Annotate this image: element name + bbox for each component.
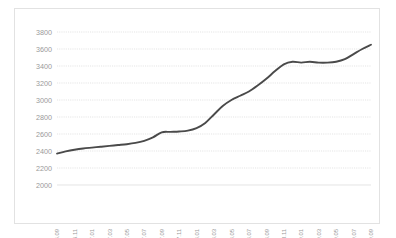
x-axis-tick-labels: 2016.092016.112017.012017.032017.052017.… bbox=[54, 228, 374, 238]
x-axis-tick-label: 2018.09 bbox=[264, 229, 270, 238]
series-group bbox=[57, 45, 371, 154]
x-axis-tick-label: 2019.01 bbox=[298, 229, 304, 238]
y-axis-tick-label: 2200 bbox=[36, 164, 52, 173]
y-axis-tick-label: 3000 bbox=[36, 96, 52, 105]
x-axis-tick-label: 2019.09 bbox=[368, 229, 374, 238]
x-axis-tick-label: 2017.01 bbox=[89, 229, 95, 238]
x-axis-tick-label: 2018.01 bbox=[194, 229, 200, 238]
y-axis-tick-label: 3400 bbox=[36, 62, 52, 71]
chart-svg: 2000220024002600280030003200340036003800… bbox=[0, 0, 396, 238]
x-axis-tick-label: 2019.03 bbox=[316, 228, 322, 238]
x-axis-tick-label: 2017.05 bbox=[124, 228, 130, 238]
line-chart: 2000220024002600280030003200340036003800… bbox=[0, 0, 396, 238]
y-axis-tick-label: 2600 bbox=[36, 130, 52, 139]
x-axis-tick-label: 2019.07 bbox=[351, 229, 357, 238]
x-axis-tick-label: 2016.09 bbox=[54, 229, 60, 238]
x-axis-tick-label: 2017.07 bbox=[141, 229, 147, 238]
y-axis-tick-label: 3600 bbox=[36, 45, 52, 54]
y-axis-tick-label: 2800 bbox=[36, 113, 52, 122]
x-axis-tick-label: 2018.07 bbox=[246, 229, 252, 238]
x-axis-tick-label: 2018.11 bbox=[281, 229, 287, 238]
x-axis-tick-label: 2019.05 bbox=[333, 228, 339, 238]
x-axis-tick-label: 2017.11 bbox=[176, 229, 182, 238]
x-axis-tick-label: 2017.03 bbox=[107, 228, 113, 238]
y-axis-tick-label: 3200 bbox=[36, 79, 52, 88]
x-axis-tick-label: 2018.05 bbox=[229, 228, 235, 238]
gridlines-group bbox=[57, 32, 371, 185]
y-axis-tick-label: 2000 bbox=[36, 181, 52, 190]
y-axis-tick-label: 2400 bbox=[36, 147, 52, 156]
x-axis-tick-label: 2018.03 bbox=[211, 228, 217, 238]
series-line bbox=[57, 45, 371, 154]
y-axis-tick-label: 3800 bbox=[36, 28, 52, 37]
x-axis-tick-label: 2017.09 bbox=[159, 229, 165, 238]
x-axis-tick-label: 2016.11 bbox=[72, 229, 78, 238]
y-axis-tick-labels: 2000220024002600280030003200340036003800 bbox=[36, 28, 52, 190]
